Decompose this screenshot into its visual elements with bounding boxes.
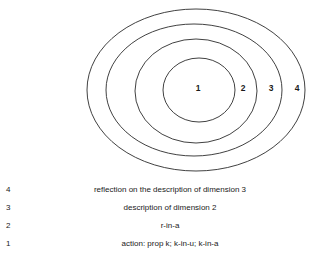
- legend-row: 3 description of dimension 2: [0, 199, 320, 217]
- legend-list: 4 reflection on the description of dimen…: [0, 181, 320, 253]
- legend-number: 1: [6, 235, 20, 253]
- legend-row: 2 r-in-a: [0, 217, 320, 235]
- nested-ellipses-diagram: 1 2 3 4: [0, 0, 320, 178]
- ring-label-1: 1: [196, 83, 201, 93]
- ring-label-2: 2: [241, 83, 246, 93]
- legend-description: description of dimension 2: [34, 199, 306, 217]
- legend-description: action: prop k; k-in-u; k-in-a: [34, 235, 306, 253]
- legend-number: 4: [6, 181, 20, 199]
- ring-ellipse-3: [106, 24, 282, 156]
- legend-number: 2: [6, 217, 20, 235]
- ring-label-3: 3: [269, 83, 274, 93]
- legend-description: reflection on the description of dimensi…: [34, 181, 306, 199]
- ring-label-4: 4: [295, 83, 300, 93]
- legend-row: 4 reflection on the description of dimen…: [0, 181, 320, 199]
- legend-row: 1 action: prop k; k-in-u; k-in-a: [0, 235, 320, 253]
- diagram-area: 1 2 3 4: [0, 0, 320, 178]
- legend-description: r-in-a: [34, 217, 306, 235]
- legend-number: 3: [6, 199, 20, 217]
